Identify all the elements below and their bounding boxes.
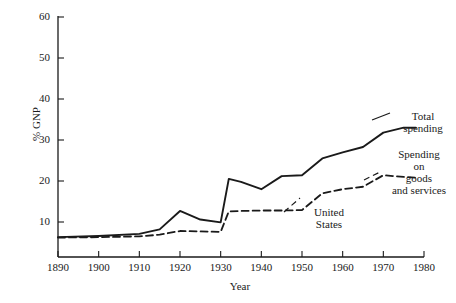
x-tick-label-1980: 1980 [402,261,446,273]
annotation-line: States [294,218,364,230]
x-tick-label-1940: 1940 [239,261,283,273]
chart-figure: % GNP Year 102030405060 1890190019101920… [0,0,456,303]
region-label-united-states: UnitedStates [294,206,364,230]
annotation-line: and services [382,184,456,196]
y-tick-label-20: 20 [10,174,50,186]
annotation-line: spending [392,122,454,134]
x-tick-label-1920: 1920 [158,261,202,273]
axes-group [58,16,424,257]
x-tick-label-1970: 1970 [361,261,405,273]
y-tick-label-50: 50 [10,51,50,63]
leader-line-total [372,113,390,120]
ticks-group [58,17,424,257]
x-tick-label-1900: 1900 [77,261,121,273]
series-label-total-spending: Totalspending [392,110,454,134]
x-tick-label-1930: 1930 [199,261,243,273]
annotation-line: on [382,160,456,172]
y-tick-label-10: 10 [10,215,50,227]
x-tick-label-1910: 1910 [117,261,161,273]
leader-lines-group [284,113,390,212]
x-tick-label-1950: 1950 [280,261,324,273]
annotation-line: Total [392,110,454,122]
y-tick-label-30: 30 [10,133,50,145]
y-tick-label-40: 40 [10,92,50,104]
annotation-line: United [294,206,364,218]
annotation-line: Spending [382,148,456,160]
y-tick-label-60: 60 [10,10,50,22]
series-label-goods-and-services: Spendingongoodsand services [382,148,456,196]
annotation-line: goods [382,172,456,184]
x-tick-label-1960: 1960 [321,261,365,273]
x-tick-label-1890: 1890 [36,261,80,273]
